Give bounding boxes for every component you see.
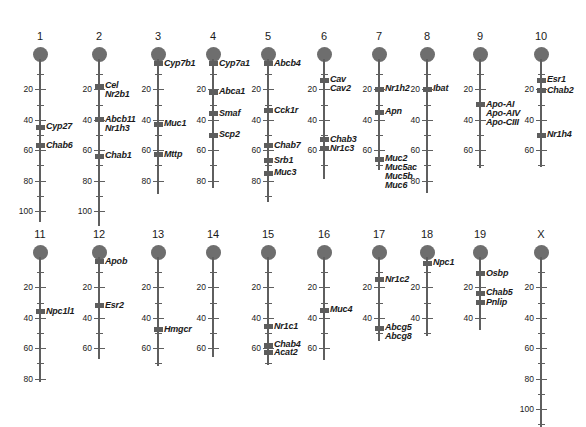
gene-marker-band bbox=[264, 61, 273, 66]
axis-tick-minor bbox=[210, 165, 217, 166]
axis-tick-label: 40 bbox=[506, 115, 534, 125]
axis-tick-minor bbox=[37, 333, 44, 334]
axis-tick-label: 60 bbox=[123, 145, 151, 155]
chromosome-number-label: 12 bbox=[79, 228, 119, 240]
axis-tick-minor bbox=[376, 74, 383, 75]
axis-tick-label: 60 bbox=[289, 343, 317, 353]
axis-tick-minor bbox=[210, 333, 217, 334]
axis-tick-label: 40 bbox=[344, 313, 372, 323]
axis-tick-label: 40 bbox=[5, 115, 33, 125]
axis-tick-major bbox=[94, 211, 105, 212]
axis-tick-minor bbox=[424, 165, 431, 166]
gene-marker-band bbox=[375, 87, 384, 92]
axis-tick-label: 20 bbox=[344, 84, 372, 94]
gene-marker-band bbox=[36, 125, 45, 130]
axis-tick-minor bbox=[37, 105, 44, 106]
gene-marker-band bbox=[154, 152, 163, 157]
axis-tick-label: 20 bbox=[178, 84, 206, 94]
axis-tick-minor bbox=[477, 165, 484, 166]
axis-tick-minor bbox=[155, 363, 162, 364]
axis-tick-major bbox=[94, 318, 105, 319]
axis-tick-major bbox=[422, 287, 433, 288]
axis-tick-major bbox=[319, 287, 330, 288]
chromosome-axis-line bbox=[212, 59, 214, 188]
axis-tick-major bbox=[35, 348, 46, 349]
axis-tick-major bbox=[422, 150, 433, 151]
axis-tick-minor bbox=[96, 74, 103, 75]
axis-tick-minor bbox=[210, 303, 217, 304]
axis-tick-label: 40 bbox=[5, 313, 33, 323]
axis-tick-major bbox=[94, 348, 105, 349]
axis-tick-minor bbox=[424, 272, 431, 273]
axis-tick-major bbox=[422, 120, 433, 121]
axis-tick-label: 20 bbox=[392, 84, 420, 94]
chromosome-axis-line bbox=[39, 59, 41, 222]
gene-label: Chab2 bbox=[547, 85, 574, 95]
axis-tick-major bbox=[536, 379, 547, 380]
axis-tick-label: 20 bbox=[445, 282, 473, 292]
chromosome-number-label: 11 bbox=[20, 228, 60, 240]
gene-marker-band bbox=[476, 291, 485, 296]
axis-tick-major bbox=[536, 348, 547, 349]
axis-tick-major bbox=[475, 150, 486, 151]
gene-marker-band bbox=[36, 309, 45, 314]
axis-tick-minor bbox=[477, 135, 484, 136]
axis-tick-major bbox=[35, 318, 46, 319]
axis-tick-label: 80 bbox=[392, 176, 420, 186]
axis-tick-major bbox=[374, 318, 385, 319]
axis-tick-minor bbox=[321, 303, 328, 304]
axis-tick-label: 20 bbox=[64, 282, 92, 292]
axis-tick-minor bbox=[155, 105, 162, 106]
axis-tick-minor bbox=[37, 363, 44, 364]
axis-tick-label: 100 bbox=[5, 206, 33, 216]
axis-tick-label: 20 bbox=[289, 84, 317, 94]
axis-tick-minor bbox=[210, 272, 217, 273]
axis-tick-minor bbox=[538, 333, 545, 334]
axis-tick-major bbox=[319, 348, 330, 349]
chromosome-axis-line bbox=[426, 257, 428, 336]
axis-tick-minor bbox=[265, 303, 272, 304]
gene-marker-band bbox=[264, 324, 273, 329]
axis-tick-minor bbox=[155, 74, 162, 75]
gene-label: Esr1 bbox=[547, 74, 566, 84]
chromosome-number-label: 3 bbox=[138, 30, 178, 42]
gene-marker-band bbox=[537, 78, 546, 83]
axis-tick-label: 100 bbox=[506, 404, 534, 414]
chromosome-axis-line bbox=[157, 257, 159, 366]
axis-tick-major bbox=[536, 409, 547, 410]
axis-tick-label: 40 bbox=[123, 313, 151, 323]
gene-marker-band bbox=[95, 303, 104, 308]
gene-label: Srb1 bbox=[274, 155, 293, 165]
axis-tick-minor bbox=[321, 105, 328, 106]
axis-tick-major bbox=[35, 89, 46, 90]
axis-tick-label: 60 bbox=[506, 145, 534, 155]
gene-label: Cyp7b1 bbox=[164, 58, 195, 68]
axis-tick-label: 20 bbox=[123, 84, 151, 94]
axis-tick-label: 60 bbox=[178, 343, 206, 353]
axis-tick-major bbox=[422, 181, 433, 182]
axis-tick-label: 80 bbox=[233, 176, 261, 186]
gene-label: Cyp7a1 bbox=[219, 58, 250, 68]
gene-marker-band bbox=[264, 143, 273, 148]
gene-marker-band bbox=[154, 327, 163, 332]
chromosome-number-label: 5 bbox=[248, 30, 288, 42]
axis-tick-major bbox=[475, 318, 486, 319]
axis-tick-minor bbox=[37, 196, 44, 197]
axis-tick-minor bbox=[265, 333, 272, 334]
chromosome-number-label: 8 bbox=[407, 30, 447, 42]
gene-marker-band bbox=[264, 343, 273, 348]
axis-tick-major bbox=[153, 150, 164, 151]
chromosome-axis-line bbox=[479, 59, 481, 168]
axis-tick-minor bbox=[321, 135, 328, 136]
axis-tick-major bbox=[208, 318, 219, 319]
axis-tick-minor bbox=[155, 135, 162, 136]
axis-tick-major bbox=[153, 287, 164, 288]
axis-tick-label: 60 bbox=[123, 343, 151, 353]
axis-tick-label: 40 bbox=[178, 115, 206, 125]
axis-tick-label: 80 bbox=[178, 176, 206, 186]
axis-tick-label: 60 bbox=[64, 145, 92, 155]
chromosome-number-label: 14 bbox=[193, 228, 233, 240]
axis-tick-label: 40 bbox=[123, 115, 151, 125]
axis-tick-label: 40 bbox=[289, 313, 317, 323]
